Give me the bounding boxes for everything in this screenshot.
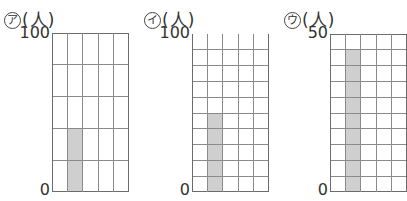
y-axis-line bbox=[330, 34, 331, 192]
gridline-horizontal bbox=[330, 81, 407, 82]
gridline-horizontal bbox=[330, 144, 407, 145]
gridline-horizontal bbox=[330, 97, 407, 98]
bar bbox=[345, 50, 360, 192]
gridline-horizontal bbox=[330, 34, 407, 35]
chart-u-ymax-label: 50 bbox=[290, 25, 328, 41]
gridline-horizontal bbox=[330, 160, 407, 161]
gridline-horizontal bbox=[330, 128, 407, 129]
gridline-vertical bbox=[376, 34, 377, 192]
gridline-horizontal bbox=[330, 113, 407, 114]
gridline-vertical bbox=[391, 34, 392, 192]
chart-u-grid bbox=[330, 34, 407, 192]
chart-u-ymin-label: 0 bbox=[290, 182, 328, 198]
gridline-horizontal bbox=[330, 65, 407, 66]
x-axis-line bbox=[330, 191, 407, 192]
gridline-vertical bbox=[360, 34, 361, 192]
gridline-vertical bbox=[345, 34, 346, 192]
gridline-horizontal bbox=[330, 176, 407, 177]
gridline-horizontal bbox=[330, 49, 407, 50]
